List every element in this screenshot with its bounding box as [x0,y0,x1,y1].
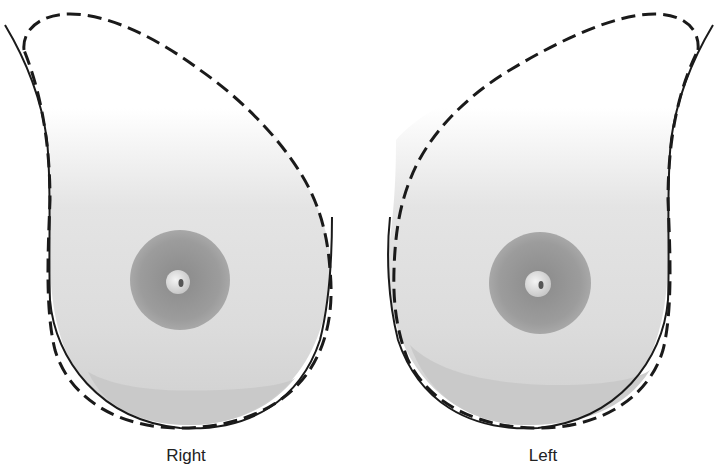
left-breast [388,14,713,428]
right-nipple-pore [179,279,184,287]
right-nipple [166,270,190,294]
right-breast-label: Right [126,446,246,466]
left-nipple-pore [539,281,544,289]
right-breast [5,14,332,428]
breast-diagram [0,0,718,476]
left-nipple [525,271,551,297]
left-breast-label: Left [483,446,603,466]
right-breast-fill [24,29,330,425]
